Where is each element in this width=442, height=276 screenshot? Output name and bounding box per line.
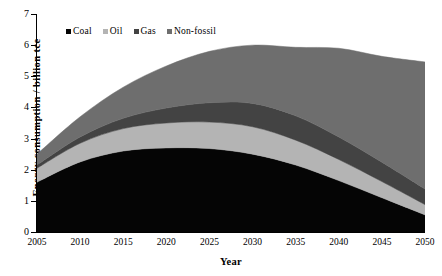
- x-axis-title: Year: [37, 256, 425, 267]
- legend-label: Oil: [110, 27, 123, 37]
- y-tick-mark: [31, 139, 36, 140]
- legend-swatch-icon: [167, 29, 172, 34]
- x-tick-label: 2025: [189, 237, 229, 247]
- plot-area: [37, 14, 425, 232]
- legend-label: Coal: [73, 27, 92, 37]
- y-tick-label: 1: [7, 196, 29, 206]
- y-tick-mark: [31, 14, 36, 15]
- x-tick-label: 2035: [276, 237, 316, 247]
- y-tick-mark: [31, 201, 36, 202]
- x-axis-line: [36, 232, 425, 233]
- x-tick-label: 2040: [319, 237, 359, 247]
- x-tick-label: 2015: [103, 237, 143, 247]
- legend-label: Gas: [141, 27, 156, 37]
- legend-item-oil: Oil: [103, 27, 123, 37]
- y-tick-label: 3: [7, 134, 29, 144]
- y-tick-label: 2: [7, 165, 29, 175]
- legend-item-gas: Gas: [134, 27, 156, 37]
- x-tick-label: 2010: [60, 237, 100, 247]
- y-tick-mark: [31, 76, 36, 77]
- y-tick-mark: [31, 170, 36, 171]
- y-tick-label: 7: [7, 9, 29, 19]
- stacked-area-chart: Energy consumption / billion tce 0123456…: [0, 0, 442, 276]
- x-tick-label: 2045: [362, 237, 402, 247]
- x-tick-label: 2030: [233, 237, 273, 247]
- legend-swatch-icon: [134, 29, 139, 34]
- legend-item-coal: Coal: [66, 27, 92, 37]
- x-tick-label: 2005: [17, 237, 57, 247]
- x-tick-label: 2050: [405, 237, 442, 247]
- y-tick-mark: [31, 107, 36, 108]
- legend-swatch-icon: [66, 29, 71, 34]
- y-tick-label: 5: [7, 71, 29, 81]
- y-tick-label: 6: [7, 40, 29, 50]
- chart-legend: CoalOilGasNon-fossil: [66, 27, 216, 37]
- legend-swatch-icon: [103, 29, 108, 34]
- legend-label: Non-fossil: [174, 27, 216, 37]
- legend-item-non-fossil: Non-fossil: [167, 27, 216, 37]
- stacked-area-series-group: [37, 14, 425, 232]
- y-tick-label: 0: [7, 227, 29, 237]
- x-tick-label: 2020: [146, 237, 186, 247]
- y-tick-mark: [31, 45, 36, 46]
- y-tick-label: 4: [7, 102, 29, 112]
- y-tick-mark: [31, 232, 36, 233]
